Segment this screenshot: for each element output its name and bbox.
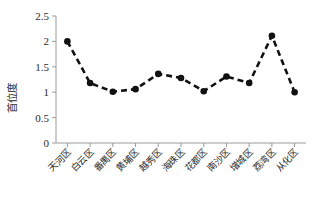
x-tick-label: 白云区 bbox=[69, 147, 96, 174]
series-line-primacy bbox=[67, 36, 294, 92]
data-point bbox=[291, 89, 298, 96]
y-tick-label: 2.5 bbox=[35, 10, 49, 22]
data-point bbox=[200, 88, 207, 95]
x-tick-label: 荔湾区 bbox=[250, 147, 277, 174]
line-chart: 00.511.522.5首位度天河区白云区番禺区黄埔区越秀区海珠区花都区南沙区增… bbox=[0, 0, 314, 197]
data-point bbox=[246, 80, 253, 87]
data-point bbox=[110, 88, 117, 95]
x-tick-label: 从化区 bbox=[273, 147, 300, 174]
y-axis-title: 首位度 bbox=[6, 82, 18, 113]
x-tick-label: 越秀区 bbox=[137, 147, 164, 174]
data-point bbox=[269, 33, 276, 40]
data-point bbox=[178, 75, 185, 82]
y-tick-label: 2 bbox=[44, 35, 50, 47]
x-tick-label: 花都区 bbox=[182, 147, 209, 174]
y-tick-label: 1.5 bbox=[35, 61, 49, 73]
data-point bbox=[87, 80, 94, 87]
x-tick-label: 天河区 bbox=[46, 147, 73, 174]
y-tick-label: 1 bbox=[44, 86, 50, 98]
x-tick-label: 黄埔区 bbox=[114, 147, 141, 174]
y-tick-label: 0.5 bbox=[35, 112, 49, 124]
data-point bbox=[155, 71, 162, 78]
y-tick-label: 0 bbox=[44, 137, 50, 149]
data-point bbox=[132, 86, 139, 93]
data-point bbox=[64, 38, 71, 45]
chart-container: 00.511.522.5首位度天河区白云区番禺区黄埔区越秀区海珠区花都区南沙区增… bbox=[0, 0, 314, 197]
x-tick-label: 海珠区 bbox=[160, 147, 187, 174]
x-tick-label: 南沙区 bbox=[205, 147, 232, 174]
x-tick-label: 增城区 bbox=[228, 147, 255, 174]
x-tick-label: 番禺区 bbox=[91, 147, 118, 174]
data-point bbox=[223, 73, 230, 80]
